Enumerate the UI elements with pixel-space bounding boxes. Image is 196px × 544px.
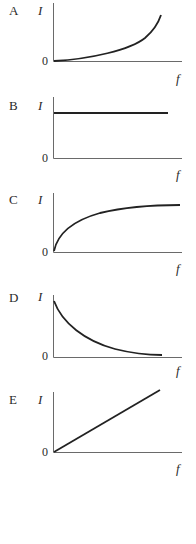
curve-a xyxy=(54,15,161,61)
panel-d: D I 0 f xyxy=(0,283,196,378)
graph-c xyxy=(0,190,196,282)
curve-d xyxy=(54,301,162,355)
panel-c: C I 0 f xyxy=(0,190,196,282)
graph-a xyxy=(0,0,196,92)
axes xyxy=(54,392,183,453)
axes xyxy=(54,97,183,159)
curve-c xyxy=(54,205,180,251)
panel-a: A I 0 f xyxy=(0,0,196,92)
graph-d xyxy=(0,283,196,378)
panel-b: B I 0 f xyxy=(0,95,196,190)
panel-e: E I 0 f xyxy=(0,380,196,480)
axes xyxy=(54,193,183,253)
graph-b xyxy=(0,95,196,190)
graph-e xyxy=(0,380,196,480)
curve-e xyxy=(54,390,160,452)
axes xyxy=(54,3,183,62)
